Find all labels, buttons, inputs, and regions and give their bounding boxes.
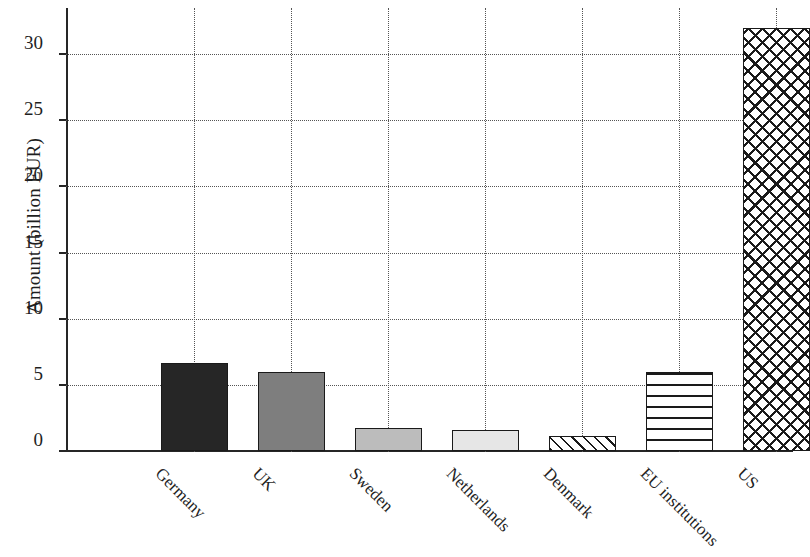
y-tick-mark: [59, 119, 66, 121]
x-axis-label-sweden: Sweden: [344, 464, 396, 516]
y-tick-mark: [59, 318, 66, 320]
y-tick-mark: [59, 252, 66, 254]
y-tick-label: 0: [34, 429, 44, 451]
x-axis-label-eu-institutions: EU institutions: [635, 464, 722, 551]
y-tick-label: 10: [24, 296, 43, 318]
y-tick-label: 15: [24, 230, 43, 252]
x-axis-label-us: US: [732, 464, 762, 494]
x-axis-label-netherlands: Netherlands: [441, 464, 513, 536]
plot-area: 051015202530 GermanyUKSwedenNetherlandsD…: [66, 8, 793, 452]
gridline-horizontal: [66, 253, 793, 254]
bar-us: [743, 28, 810, 451]
gridline-vertical: [582, 8, 583, 452]
gridline-horizontal: [66, 54, 793, 55]
x-axis-label-uk: UK: [247, 464, 279, 496]
x-axis-label-denmark: Denmark: [538, 464, 597, 523]
gridline-horizontal: [66, 319, 793, 320]
y-tick-label: 5: [34, 362, 44, 384]
gridline-vertical: [485, 8, 486, 452]
bar-eu-institutions: [646, 372, 713, 451]
bar-germany: [161, 363, 228, 451]
y-tick-mark: [59, 53, 66, 55]
x-axis-label-germany: Germany: [150, 464, 209, 523]
bar-sweden: [355, 428, 422, 451]
bar-denmark: [549, 436, 616, 451]
bar-netherlands: [452, 430, 519, 451]
y-tick-label: 25: [24, 98, 43, 120]
y-tick-mark: [59, 450, 66, 452]
bar-uk: [258, 372, 325, 451]
gridline-horizontal: [66, 120, 793, 121]
y-tick-mark: [59, 384, 66, 386]
y-tick-mark: [59, 185, 66, 187]
gridline-vertical: [388, 8, 389, 452]
gridline-horizontal: [66, 186, 793, 187]
y-tick-label: 30: [24, 32, 43, 54]
y-tick-label: 20: [24, 164, 43, 186]
